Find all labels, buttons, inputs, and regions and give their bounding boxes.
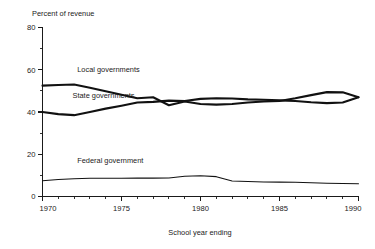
chart-container: 020406080 19701975198019851990 Local gov… — [0, 0, 375, 249]
x-tick-label: 1975 — [113, 204, 130, 213]
series-label-state-governments: State governments — [73, 91, 135, 100]
x-tick-label: 1980 — [192, 204, 209, 213]
x-tick-label: 1970 — [40, 204, 57, 213]
series-label-federal-government: Federal government — [77, 156, 143, 165]
line-chart: 020406080 19701975198019851990 Local gov… — [0, 0, 375, 249]
x-axis-title: School year ending — [168, 228, 231, 237]
series-label-local-governments: Local governments — [77, 65, 140, 74]
x-tick-label: 1990 — [345, 204, 362, 213]
y-axis-tick-labels: 020406080 — [27, 23, 35, 201]
series-inline-labels: Local governmentsState governmentsFedera… — [73, 65, 144, 165]
y-tick-label: 40 — [27, 108, 35, 117]
series-line-federal-government — [43, 176, 359, 184]
y-tick-label: 80 — [27, 23, 35, 32]
y-tick-label: 0 — [31, 192, 35, 201]
x-tick-label: 1985 — [271, 204, 288, 213]
y-tick-label: 60 — [27, 66, 35, 75]
y-axis-title: Percent of revenue — [32, 9, 94, 18]
y-tick-label: 20 — [27, 150, 35, 159]
x-axis-tick-labels: 19701975198019851990 — [40, 204, 362, 213]
axis-ticks — [38, 28, 359, 202]
